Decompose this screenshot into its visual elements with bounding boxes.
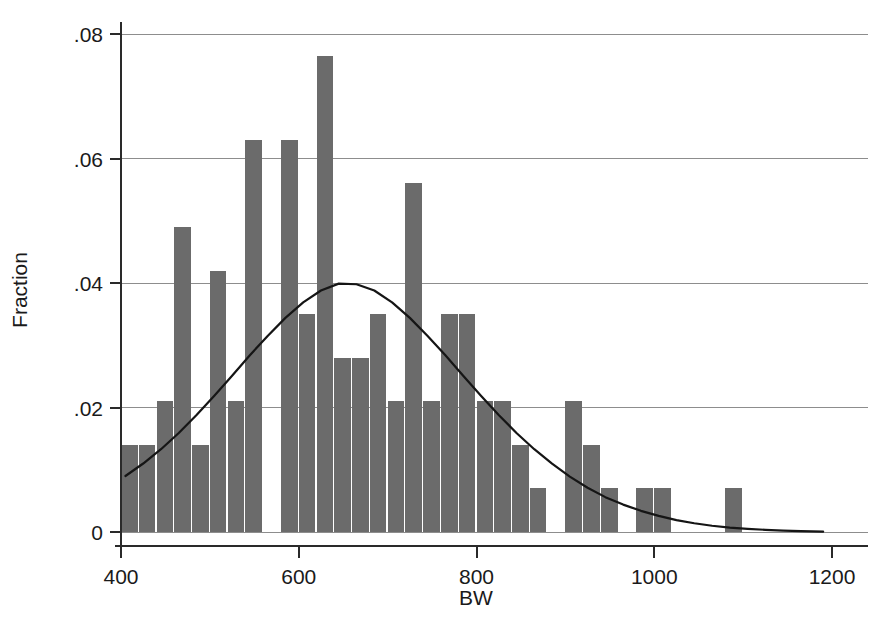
histogram-bar [210, 271, 227, 532]
histogram-bar [370, 314, 387, 532]
x-axis-ticks: 40060080010001200 [103, 546, 855, 588]
histogram-bar [512, 445, 529, 532]
x-tick-label: 600 [281, 565, 316, 588]
histogram-bar [459, 314, 476, 532]
histogram-bar [654, 488, 671, 532]
y-tick-label: .08 [74, 23, 103, 46]
histogram-bar [121, 445, 138, 532]
histogram-bar [317, 56, 334, 532]
histogram-bars [121, 56, 742, 532]
x-axis-title: BW [459, 586, 493, 609]
histogram-bar [388, 401, 405, 532]
histogram-bar [139, 445, 156, 532]
histogram-bar [565, 401, 582, 532]
x-tick-label: 1000 [631, 565, 678, 588]
y-axis-title: Fraction [8, 252, 31, 328]
histogram-bar [441, 314, 458, 532]
histogram-bar [334, 358, 351, 532]
x-tick-label: 1200 [809, 565, 856, 588]
y-axis-ticks: 0.02.04.06.08 [74, 23, 121, 544]
histogram-bar [477, 401, 494, 532]
y-tick-label: .04 [74, 272, 104, 295]
histogram-bar [494, 401, 511, 532]
histogram-bar [405, 183, 422, 532]
histogram-bar [281, 140, 298, 532]
y-tick-label: .02 [74, 397, 103, 420]
x-tick-label: 800 [459, 565, 494, 588]
histogram-chart: 0.02.04.06.08 40060080010001200 Fraction… [0, 0, 875, 630]
histogram-bar [157, 401, 174, 532]
histogram-bar [423, 401, 440, 532]
x-tick-label: 400 [103, 565, 138, 588]
histogram-bar [228, 401, 245, 532]
histogram-bar [583, 445, 600, 532]
histogram-bar [352, 358, 369, 532]
histogram-bar [174, 227, 191, 532]
chart-canvas: 0.02.04.06.08 40060080010001200 Fraction… [0, 0, 875, 630]
histogram-bar [725, 488, 742, 532]
histogram-bar [245, 140, 262, 532]
histogram-bar [530, 488, 547, 532]
y-tick-label: 0 [91, 521, 103, 544]
y-tick-label: .06 [74, 148, 103, 171]
histogram-bar [192, 445, 209, 532]
histogram-bar [299, 314, 316, 532]
